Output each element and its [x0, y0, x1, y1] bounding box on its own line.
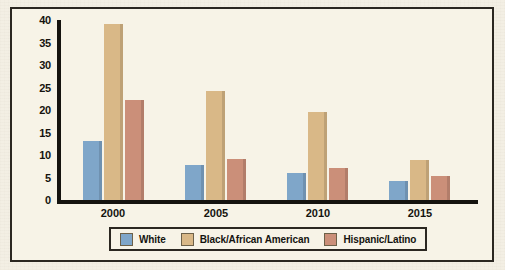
bar	[431, 176, 450, 200]
bars-layer	[61, 20, 478, 200]
x-tick-label: 2015	[390, 207, 450, 219]
bar-edge	[141, 100, 144, 200]
bar-edge	[345, 168, 348, 200]
legend-item-black-african-american: Black/African American	[181, 233, 310, 246]
y-tick-label: 35	[29, 37, 51, 49]
bar-edge	[405, 181, 408, 200]
legend-swatch-white	[120, 233, 133, 246]
legend-label-white: White	[139, 234, 166, 245]
bar-edge	[99, 141, 102, 200]
scanned-page: 40 35 30 25 20 15 10 5 0 2000 2005 2010 …	[0, 0, 505, 270]
bar	[125, 100, 144, 200]
bar	[389, 181, 408, 200]
legend-swatch-black-african-american	[181, 233, 194, 246]
bar	[185, 165, 204, 200]
bar-edge	[426, 160, 429, 201]
chart-frame: 40 35 30 25 20 15 10 5 0 2000 2005 2010 …	[10, 7, 494, 262]
y-tick-label: 25	[29, 82, 51, 94]
y-tick-label: 40	[29, 14, 51, 26]
bar	[329, 168, 348, 200]
bar	[410, 160, 429, 201]
bar	[104, 24, 123, 200]
bar	[308, 112, 327, 200]
legend-swatch-hispanic-latino	[324, 233, 337, 246]
bar-edge	[201, 165, 204, 200]
bar-edge	[324, 112, 327, 200]
bar	[287, 173, 306, 200]
bar-edge	[243, 159, 246, 200]
bar-chart: 40 35 30 25 20 15 10 5 0 2000 2005 2010 …	[12, 9, 496, 264]
bar	[227, 159, 246, 200]
y-tick-label: 0	[29, 194, 51, 206]
y-tick-label: 10	[29, 149, 51, 161]
x-tick-label: 2005	[186, 207, 246, 219]
legend-label-hispanic-latino: Hispanic/Latino	[343, 234, 416, 245]
y-tick-label: 20	[29, 104, 51, 116]
y-tick-label: 5	[29, 172, 51, 184]
bar-edge	[120, 24, 123, 200]
bar	[83, 141, 102, 200]
x-tick-label: 2010	[288, 207, 348, 219]
bar-edge	[222, 91, 225, 200]
legend-label-black-african-american: Black/African American	[200, 234, 310, 245]
x-axis-line	[57, 200, 478, 204]
y-tick-label: 15	[29, 127, 51, 139]
legend-item-hispanic-latino: Hispanic/Latino	[324, 233, 416, 246]
bar-edge	[447, 176, 450, 200]
bar-edge	[303, 173, 306, 200]
legend-item-white: White	[120, 233, 166, 246]
bar	[206, 91, 225, 200]
x-tick-label: 2000	[83, 207, 143, 219]
chart-legend: White Black/African American Hispanic/La…	[109, 227, 427, 251]
y-tick-label: 30	[29, 59, 51, 71]
